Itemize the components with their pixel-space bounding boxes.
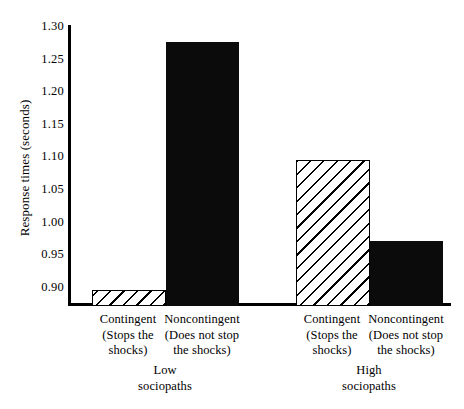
- category-label-high-noncontingent: Noncontingent(Does not stopthe shocks): [354, 312, 458, 359]
- category-label-line: (Does not stop: [354, 328, 458, 344]
- bar-low-noncontingent: [166, 42, 240, 306]
- plot-area: [68, 24, 452, 306]
- group-label-line: High: [299, 363, 439, 379]
- y-tick-label: 1.15: [22, 118, 64, 131]
- bar-chart: Response times (seconds) 0.900.951.001.0…: [0, 0, 464, 409]
- y-tick-label: 0.90: [22, 281, 64, 294]
- category-label-line: the shocks): [354, 343, 458, 359]
- category-label-line: the shocks): [150, 343, 254, 359]
- category-label-line: Noncontingent: [150, 312, 254, 328]
- group-label-high-sociopaths: Highsociopaths: [299, 363, 439, 394]
- y-tick-label: 1.05: [22, 183, 64, 196]
- y-tick-label: 1.00: [22, 216, 64, 229]
- group-label-line: sociopaths: [95, 379, 235, 395]
- bar-high-contingent: [296, 160, 370, 307]
- group-label-line: sociopaths: [299, 379, 439, 395]
- y-tick-label: 1.25: [22, 53, 64, 66]
- bar-high-noncontingent: [370, 241, 444, 306]
- y-tick-label: 1.30: [22, 20, 64, 33]
- group-label-low-sociopaths: Lowsociopaths: [95, 363, 235, 394]
- category-label-line: Noncontingent: [354, 312, 458, 328]
- category-label-line: (Does not stop: [150, 328, 254, 344]
- group-label-line: Low: [95, 363, 235, 379]
- category-label-low-noncontingent: Noncontingent(Does not stopthe shocks): [150, 312, 254, 359]
- y-tick-label: 0.95: [22, 248, 64, 261]
- y-tick-label: 1.20: [22, 85, 64, 98]
- y-tick-label: 1.10: [22, 150, 64, 163]
- bar-low-contingent: [92, 290, 166, 306]
